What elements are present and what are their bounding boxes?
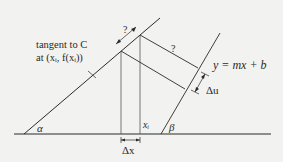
arrowhead	[195, 87, 199, 92]
question-mark-mid: ?	[171, 43, 175, 54]
tangent-label-line1: tangent to C	[36, 39, 87, 51]
diagram-geometry	[0, 0, 283, 162]
alpha-label: α	[37, 122, 43, 134]
connector-bottom	[121, 51, 185, 89]
arrowhead	[116, 39, 121, 44]
arrowhead	[131, 27, 136, 32]
arrowhead	[136, 139, 140, 142]
arrowhead	[201, 74, 205, 79]
delta-x-label: Δx	[122, 144, 135, 156]
arrowhead	[121, 139, 125, 142]
beta-label: β	[169, 121, 174, 133]
label-pointer	[88, 71, 96, 78]
xi-label: xᵢ	[143, 119, 149, 130]
connector-top	[140, 35, 198, 68]
line-equation-label: y = mx + b	[213, 58, 267, 73]
diagram-canvas: tangent to C at (xᵢ, f(xᵢ)) y = mx + b α…	[0, 0, 283, 162]
delta-u-label: Δu	[206, 84, 219, 96]
tangent-label-line2: at (xᵢ, f(xᵢ))	[36, 52, 83, 64]
question-mark-top: ?	[123, 24, 127, 35]
